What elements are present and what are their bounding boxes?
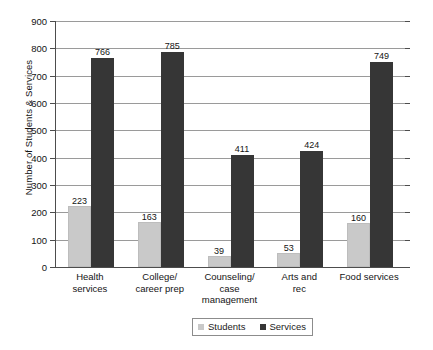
x-axis-label-line: management <box>195 294 265 306</box>
bar-services-4: 749 <box>370 62 393 267</box>
y-axis-tick-right <box>405 267 410 268</box>
gridline <box>56 21 405 22</box>
y-axis-tick <box>50 130 55 131</box>
x-axis-label-line: services <box>55 283 125 295</box>
y-axis-tick-label: 200 <box>31 207 47 218</box>
bar-students-0: 223 <box>68 206 91 267</box>
y-axis-tick-right <box>405 103 410 104</box>
bar-value-label: 223 <box>72 196 87 206</box>
y-axis-tick-label: 800 <box>31 43 47 54</box>
y-axis-tick-label: 600 <box>31 98 47 109</box>
bar-services-1: 785 <box>161 52 184 267</box>
y-axis-tick <box>50 267 55 268</box>
plot-area: 0100200300400500600700800900223766163785… <box>55 21 405 268</box>
y-axis-tick <box>50 185 55 186</box>
y-axis-tick <box>50 48 55 49</box>
bar-students-3: 53 <box>277 253 300 267</box>
bar-students-2: 39 <box>208 256 231 267</box>
y-axis-tick <box>50 240 55 241</box>
y-axis-tick-label: 700 <box>31 70 47 81</box>
y-axis-tick-right <box>405 158 410 159</box>
y-axis-tick-label: 0 <box>42 262 47 273</box>
legend-swatch-services-icon <box>260 324 266 330</box>
x-axis-label-4: Food services <box>334 271 404 283</box>
y-axis-tick <box>50 212 55 213</box>
y-axis-tick-label: 500 <box>31 125 47 136</box>
bar-value-label: 749 <box>374 51 389 61</box>
y-axis-tick-right <box>405 76 410 77</box>
x-axis-label-1: College/career prep <box>125 271 195 294</box>
bar-value-label: 424 <box>304 140 319 150</box>
bar-services-0: 766 <box>91 58 114 267</box>
legend-item-students: Students <box>198 321 246 332</box>
bar-value-label: 160 <box>351 213 366 223</box>
bar-value-label: 766 <box>95 47 110 57</box>
y-axis-tick-label: 400 <box>31 152 47 163</box>
y-axis-tick-label: 100 <box>31 234 47 245</box>
bar-services-3: 424 <box>300 151 323 267</box>
bar-chart: Number of Students & Services 0100200300… <box>0 0 433 350</box>
y-axis-tick-label: 300 <box>31 180 47 191</box>
y-axis-tick-right <box>405 48 410 49</box>
bar-value-label: 411 <box>235 144 249 154</box>
y-axis-tick-right <box>405 240 410 241</box>
legend-label-services: Services <box>270 321 306 332</box>
x-axis-label-3: Arts andrec <box>264 271 334 294</box>
bar-value-label: 39 <box>214 246 224 256</box>
y-axis-tick-right <box>405 185 410 186</box>
y-axis-tick-label: 900 <box>31 16 47 27</box>
y-axis-tick <box>50 76 55 77</box>
x-axis-label-line: Counseling/ <box>195 271 265 283</box>
bar-value-label: 53 <box>284 243 294 253</box>
x-axis-label-line: College/ <box>125 271 195 283</box>
x-axis-label-line: case <box>195 283 265 295</box>
legend-swatch-students-icon <box>198 324 204 330</box>
x-axis-label-2: Counseling/casemanagement <box>195 271 265 306</box>
bar-value-label: 785 <box>165 41 180 51</box>
bar-services-2: 411 <box>231 155 254 267</box>
bar-students-4: 160 <box>347 223 370 267</box>
bar-students-1: 163 <box>138 222 161 267</box>
y-axis-tick-right <box>405 212 410 213</box>
x-axis-label-line: rec <box>264 283 334 295</box>
bar-value-label: 163 <box>142 212 157 222</box>
y-axis-tick <box>50 158 55 159</box>
y-axis-tick-right <box>405 130 410 131</box>
y-axis-tick <box>50 103 55 104</box>
x-axis-label-line: Food services <box>334 271 404 283</box>
y-axis-tick <box>50 21 55 22</box>
x-axis-label-line: Health <box>55 271 125 283</box>
legend-label-students: Students <box>208 321 246 332</box>
x-axis-label-line: Arts and <box>264 271 334 283</box>
x-axis-label-line: career prep <box>125 283 195 295</box>
y-axis-tick-right <box>405 21 410 22</box>
chart-legend: Students Services <box>192 318 313 336</box>
x-axis-label-0: Healthservices <box>55 271 125 294</box>
legend-item-services: Services <box>260 321 306 332</box>
